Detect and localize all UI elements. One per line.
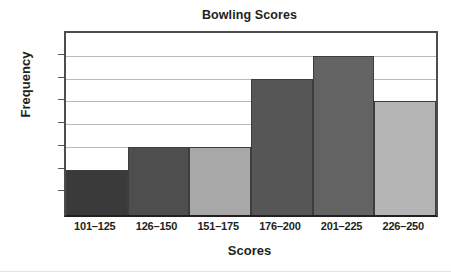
bar[interactable] <box>251 79 313 216</box>
bowling-scores-histogram: Bowling Scores Frequency 012345678 101–1… <box>0 0 451 275</box>
plot-area <box>64 31 438 217</box>
y-axis-tick-mark <box>58 168 64 169</box>
bar-series <box>66 33 436 215</box>
x-axis-tick-label: 176–200 <box>249 220 311 232</box>
y-axis-tick-mark <box>58 122 64 123</box>
bar[interactable] <box>313 56 375 215</box>
y-axis-tick-mark <box>58 145 64 146</box>
bar[interactable] <box>189 147 251 215</box>
x-axis-tick-label: 201–225 <box>311 220 373 232</box>
y-axis-tick-mark <box>58 54 64 55</box>
bar[interactable] <box>66 170 128 216</box>
bottom-divider <box>0 271 451 272</box>
y-axis-tick-mark <box>58 190 64 191</box>
x-axis-tick-label: 226–250 <box>372 220 434 232</box>
x-axis-tick-label: 101–125 <box>64 220 126 232</box>
y-axis-title: Frequency <box>18 15 33 155</box>
x-axis-tick-labels: 101–125126–150151–175176–200201–225226–2… <box>64 220 434 232</box>
y-axis-tick-mark <box>58 99 64 100</box>
y-axis-tick-mark <box>58 77 64 78</box>
chart-title: Bowling Scores <box>64 8 435 22</box>
x-axis-title: Scores <box>64 243 435 258</box>
bar[interactable] <box>374 101 436 215</box>
x-axis-tick-label: 151–175 <box>187 220 249 232</box>
x-axis-tick-label: 126–150 <box>126 220 188 232</box>
bar[interactable] <box>128 147 190 215</box>
